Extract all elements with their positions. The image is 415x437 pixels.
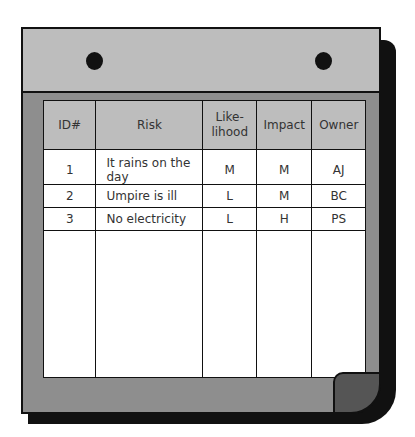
empty-cell [96,231,203,378]
cell-id: 1 [44,150,96,185]
cell-likelihood: L [203,208,256,231]
table-row: 3 No electricity L H PS [44,208,366,231]
cell-likelihood: M [203,150,256,185]
empty-cell [44,231,96,378]
cell-impact: H [256,208,312,231]
header-likelihood-line1: Like- [216,110,244,124]
table-row: 2 Umpire is ill L M BC [44,185,366,208]
empty-cell [312,231,366,378]
empty-cell [256,231,312,378]
cell-id: 2 [44,185,96,208]
binder-hole-icon [315,52,332,70]
cell-risk: Umpire is ill [96,185,203,208]
binder-strip [23,29,379,93]
header-likelihood: Like-lihood [203,101,256,150]
cell-id: 3 [44,208,96,231]
cell-owner: BC [312,185,366,208]
header-risk: Risk [96,101,203,150]
header-impact: Impact [256,101,312,150]
binder-hole-icon [86,52,103,70]
cell-risk: No electricity [96,208,203,231]
empty-row [44,231,366,378]
cell-owner: PS [312,208,366,231]
cell-risk: It rains on the day [96,150,203,185]
cell-impact: M [256,185,312,208]
cell-owner: AJ [312,150,366,185]
risk-table: ID# Risk Like-lihood Impact Owner 1 It r… [43,100,366,378]
cell-likelihood: L [203,185,256,208]
table-row: 1 It rains on the day M M AJ [44,150,366,185]
header-likelihood-line2: lihood [211,125,248,139]
header-id: ID# [44,101,96,150]
table-header-row: ID# Risk Like-lihood Impact Owner [44,101,366,150]
cell-impact: M [256,150,312,185]
empty-cell [203,231,256,378]
header-owner: Owner [312,101,366,150]
risk-register-board: ID# Risk Like-lihood Impact Owner 1 It r… [21,27,381,414]
